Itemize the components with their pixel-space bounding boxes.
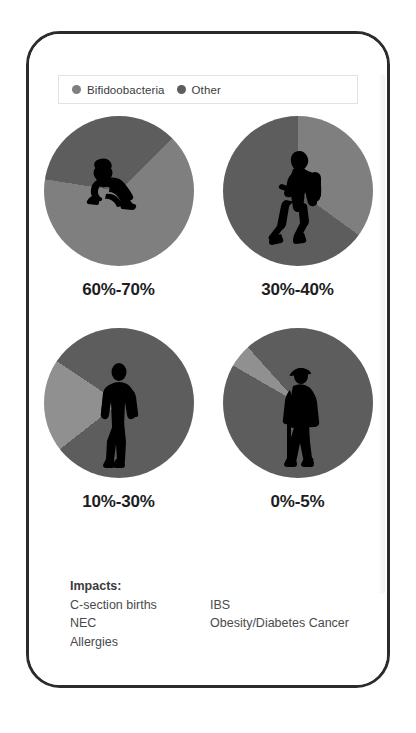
- impacts-title: Impacts:: [70, 577, 210, 596]
- pie-cell-infant: 60%-70%: [29, 116, 208, 300]
- legend-dot-icon: [72, 85, 81, 94]
- pie-chart-adolescent[interactable]: [223, 116, 373, 266]
- pie-cell-adolescent: 30%-40%: [208, 116, 387, 300]
- impacts-item: C-section births: [70, 596, 210, 615]
- impacts-item: IBS: [210, 596, 370, 615]
- standing-adult-icon: [44, 328, 194, 478]
- pie-cell-elderly: 0%-5%: [208, 328, 387, 512]
- phone-screen: Bifidoobacteria Other: [29, 34, 387, 685]
- pie-chart-elderly[interactable]: [223, 328, 373, 478]
- pie-label: 60%-70%: [82, 280, 154, 300]
- impacts-column-right: IBS Obesity/Diabetes Cancer: [210, 577, 370, 651]
- chart-legend: Bifidoobacteria Other: [58, 75, 358, 104]
- crawling-baby-icon: [44, 116, 194, 266]
- pie-label: 30%-40%: [261, 280, 333, 300]
- legend-dot-icon: [177, 85, 186, 94]
- pie-label: 0%-5%: [271, 492, 325, 512]
- pie-cell-adult: 10%-30%: [29, 328, 208, 512]
- pie-chart-grid: 60%-70%: [29, 116, 387, 512]
- pie-chart-infant[interactable]: [44, 116, 194, 266]
- impacts-item: Allergies: [70, 633, 210, 652]
- elderly-with-cane-icon: [223, 328, 373, 478]
- phone-frame: Bifidoobacteria Other: [26, 31, 390, 688]
- legend-item-other[interactable]: Other: [177, 84, 221, 96]
- impacts-column-left: Impacts: C-section births NEC Allergies: [70, 577, 210, 651]
- teen-with-phone-icon: [223, 116, 373, 266]
- pie-chart-adult[interactable]: [44, 328, 194, 478]
- impacts-item: NEC: [70, 614, 210, 633]
- impacts-item: Obesity/Diabetes Cancer: [210, 614, 370, 633]
- legend-label: Other: [192, 84, 221, 96]
- legend-item-bifidoobacteria[interactable]: Bifidoobacteria: [72, 84, 165, 96]
- legend-label: Bifidoobacteria: [87, 84, 165, 96]
- pie-label: 10%-30%: [82, 492, 154, 512]
- impacts-section: Impacts: C-section births NEC Allergies …: [70, 577, 370, 651]
